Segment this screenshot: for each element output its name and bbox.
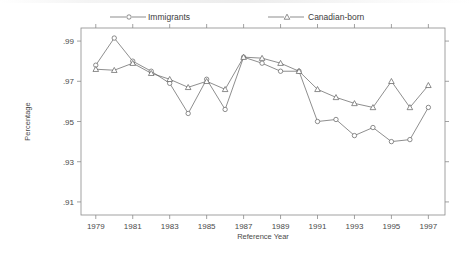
y-tick-label: .91 bbox=[63, 198, 75, 207]
series-line-immigrants bbox=[96, 38, 429, 142]
x-axis-title: Reference Year bbox=[237, 232, 289, 241]
x-tick-label: 1985 bbox=[198, 222, 216, 231]
data-point-immigrants-1992 bbox=[334, 117, 338, 121]
data-point-canadian-born-1992 bbox=[333, 95, 339, 100]
legend-marker-circle bbox=[127, 15, 131, 19]
legend-marker-triangle bbox=[284, 14, 290, 19]
data-point-immigrants-1995 bbox=[389, 139, 393, 143]
x-tick-label: 1991 bbox=[309, 222, 327, 231]
x-tick-label: 1981 bbox=[124, 222, 142, 231]
line-chart: .91.93.95.97.991979198119831985198719891… bbox=[0, 0, 473, 256]
legend-label-immigrants: Immigrants bbox=[148, 12, 190, 22]
x-tick-label: 1993 bbox=[346, 222, 364, 231]
x-tick-label: 1987 bbox=[235, 222, 253, 231]
data-point-immigrants-1994 bbox=[371, 125, 375, 129]
chart-container: .91.93.95.97.991979198119831985198719891… bbox=[0, 0, 473, 256]
x-tick-label: 1979 bbox=[87, 222, 105, 231]
data-point-immigrants-1980 bbox=[112, 36, 116, 40]
cropped-title-sliver bbox=[0, 0, 473, 3]
x-tick-label: 1983 bbox=[161, 222, 179, 231]
y-tick-label: .93 bbox=[63, 158, 75, 167]
data-point-canadian-born-1995 bbox=[389, 78, 395, 83]
data-point-immigrants-1991 bbox=[315, 119, 319, 123]
x-tick-label: 1989 bbox=[272, 222, 290, 231]
data-point-immigrants-1997 bbox=[426, 105, 430, 109]
y-tick-label: .95 bbox=[63, 118, 75, 127]
data-point-immigrants-1984 bbox=[186, 111, 190, 115]
data-point-immigrants-1993 bbox=[352, 133, 356, 137]
y-axis-title: Percentage bbox=[23, 102, 32, 140]
data-point-immigrants-1989 bbox=[278, 69, 282, 73]
data-point-canadian-born-1979 bbox=[93, 66, 99, 71]
data-point-immigrants-1986 bbox=[223, 107, 227, 111]
y-tick-label: .99 bbox=[63, 37, 75, 46]
x-tick-label: 1997 bbox=[419, 222, 437, 231]
legend-label-canadian-born: Canadian-born bbox=[308, 12, 365, 22]
data-point-immigrants-1988 bbox=[260, 61, 264, 65]
x-tick-label: 1995 bbox=[383, 222, 401, 231]
data-point-canadian-born-1986 bbox=[222, 87, 228, 92]
data-point-canadian-born-1997 bbox=[426, 83, 432, 88]
y-tick-label: .97 bbox=[63, 77, 75, 86]
data-point-immigrants-1996 bbox=[408, 137, 412, 141]
plot-frame bbox=[81, 28, 445, 215]
